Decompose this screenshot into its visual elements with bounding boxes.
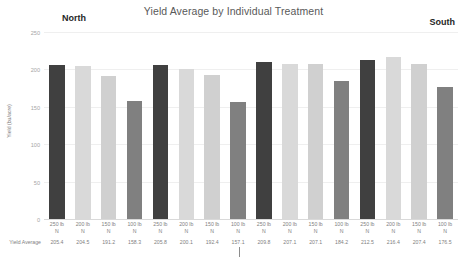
bar-series <box>44 32 458 219</box>
yield-average-value: 212.5 <box>355 238 381 246</box>
yield-average-value: 209.8 <box>251 238 277 246</box>
x-axis-label-line1: 250 lb <box>355 221 381 228</box>
region-label-south: South <box>430 17 456 27</box>
chart-container: Yield Average by Individual Treatment No… <box>0 0 467 260</box>
yield-average-value: 207.4 <box>406 238 432 246</box>
bar[interactable] <box>386 57 402 219</box>
bar-slot <box>96 32 122 219</box>
x-axis-label-line1: 100 lb <box>329 221 355 228</box>
yield-average-row: Yield Average 205.4204.5191.2158.3205.82… <box>0 238 467 246</box>
x-axis-label-line2: N <box>380 228 406 235</box>
bar-slot <box>173 32 199 219</box>
x-axis-label-line2: N <box>432 228 458 235</box>
yield-average-value: 157.1 <box>225 238 251 246</box>
y-tick-label-200: 200 <box>31 67 40 73</box>
bar-slot <box>199 32 225 219</box>
yield-average-value: 192.4 <box>199 238 225 246</box>
bar[interactable] <box>153 65 169 219</box>
x-axis-label-line2: N <box>122 228 148 235</box>
yield-average-value: 205.4 <box>44 238 70 246</box>
yield-average-value: 216.4 <box>380 238 406 246</box>
x-axis-label: 200 lbN <box>277 221 303 235</box>
x-axis-label: 250 lbN <box>251 221 277 235</box>
bar[interactable] <box>411 64 427 219</box>
y-axis-title: Yield (bu/acre) <box>6 86 12 156</box>
yield-average-value: 207.1 <box>277 238 303 246</box>
y-tick-label-150: 150 <box>31 105 40 111</box>
x-axis-label-line2: N <box>277 228 303 235</box>
x-axis-label: 100 lbN <box>432 221 458 235</box>
bar-slot <box>70 32 96 219</box>
x-axis-label-line1: 150 lb <box>406 221 432 228</box>
x-axis-label: 100 lbN <box>122 221 148 235</box>
x-axis-label-line1: 150 lb <box>303 221 329 228</box>
x-axis-label: 200 lbN <box>70 221 96 235</box>
x-axis-label: 250 lbN <box>148 221 174 235</box>
gridline-0: 0 <box>44 219 458 220</box>
yield-average-value: 158.3 <box>122 238 148 246</box>
x-axis-label: 250 lbN <box>44 221 70 235</box>
x-axis-label-line1: 100 lb <box>432 221 458 228</box>
bottom-tick-mark <box>239 247 240 257</box>
y-tick-label-100: 100 <box>31 142 40 148</box>
x-axis-label: 200 lbN <box>173 221 199 235</box>
x-axis-label-line1: 100 lb <box>122 221 148 228</box>
yield-average-values: 205.4204.5191.2158.3205.8200.1192.4157.1… <box>44 238 458 246</box>
x-axis-label-line2: N <box>303 228 329 235</box>
yield-average-value: 200.1 <box>173 238 199 246</box>
bar-slot <box>355 32 381 219</box>
bar[interactable] <box>360 60 376 219</box>
region-label-north: North <box>62 13 86 23</box>
x-axis-label-line1: 200 lb <box>173 221 199 228</box>
bar[interactable] <box>256 62 272 219</box>
bar[interactable] <box>49 65 65 219</box>
yield-average-value: 184.2 <box>329 238 355 246</box>
x-axis-label-line1: 100 lb <box>225 221 251 228</box>
x-axis-label-line2: N <box>148 228 174 235</box>
x-axis-label: 150 lbN <box>303 221 329 235</box>
yield-average-value: 204.5 <box>70 238 96 246</box>
bar-slot <box>225 32 251 219</box>
x-axis-label-line2: N <box>406 228 432 235</box>
x-axis-label-line1: 150 lb <box>199 221 225 228</box>
bar[interactable] <box>127 101 143 219</box>
x-axis-label-line2: N <box>44 228 70 235</box>
x-axis-label-line1: 200 lb <box>380 221 406 228</box>
bar-slot <box>329 32 355 219</box>
bar[interactable] <box>101 76 117 219</box>
yield-average-value: 207.1 <box>303 238 329 246</box>
x-axis-label-line1: 200 lb <box>70 221 96 228</box>
x-axis-labels: 250 lbN200 lbN150 lbN100 lbN250 lbN200 l… <box>44 221 458 235</box>
bar[interactable] <box>308 64 324 219</box>
bar-slot <box>432 32 458 219</box>
x-axis-label: 150 lbN <box>199 221 225 235</box>
x-axis-label: 100 lbN <box>225 221 251 235</box>
x-axis-label-line2: N <box>355 228 381 235</box>
x-axis-label: 150 lbN <box>406 221 432 235</box>
bar[interactable] <box>204 75 220 219</box>
bar-slot <box>148 32 174 219</box>
x-axis-label-line2: N <box>251 228 277 235</box>
bar-slot <box>251 32 277 219</box>
yield-average-value: 176.5 <box>432 238 458 246</box>
bar[interactable] <box>75 66 91 219</box>
bar[interactable] <box>282 64 298 219</box>
bar[interactable] <box>437 87 453 219</box>
y-tick-label-0: 0 <box>37 217 40 223</box>
x-axis-label-line2: N <box>173 228 199 235</box>
x-axis-label: 200 lbN <box>380 221 406 235</box>
bar[interactable] <box>179 69 195 219</box>
bar-slot <box>277 32 303 219</box>
y-tick-label-250: 250 <box>31 30 40 36</box>
x-axis-label-line2: N <box>199 228 225 235</box>
bar[interactable] <box>230 102 246 220</box>
x-axis-label: 250 lbN <box>355 221 381 235</box>
bar-slot <box>303 32 329 219</box>
bar[interactable] <box>334 81 350 219</box>
bar-slot <box>380 32 406 219</box>
bar-slot <box>406 32 432 219</box>
y-tick-label-50: 50 <box>34 180 40 186</box>
yield-average-value: 205.8 <box>148 238 174 246</box>
x-axis-label: 150 lbN <box>96 221 122 235</box>
bar-slot <box>122 32 148 219</box>
